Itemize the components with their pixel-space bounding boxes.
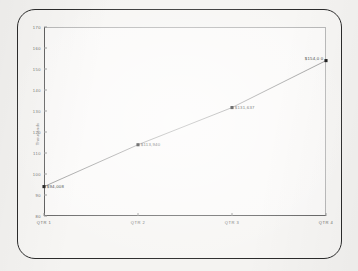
data-point-marker [42, 185, 45, 188]
y-tick-label: 90 [36, 193, 41, 198]
data-point-label: $94,008 [47, 184, 65, 189]
y-tick-label: 80 [36, 214, 41, 219]
y-tick-label: 160 [33, 46, 41, 51]
y-tick-label: 150 [33, 67, 41, 72]
data-point-marker [136, 143, 139, 146]
data-point-label: $154,0 0 [305, 56, 324, 61]
data-point-marker [230, 106, 233, 109]
y-tick-label: 130 [33, 109, 41, 114]
x-tick-label: QTR 3 [225, 220, 240, 225]
scanned-page: Thousands 8090100110120130140150160170 Q… [0, 0, 358, 271]
x-tick-label: QTR 1 [37, 220, 52, 225]
y-tick-label: 120 [33, 130, 41, 135]
x-tick-label: QTR 2 [131, 220, 146, 225]
x-tick-label: QTR 4 [319, 220, 334, 225]
data-point-label: $131,637 [235, 105, 255, 110]
data-point-marker [324, 59, 327, 62]
line-chart: Thousands 8090100110120130140150160170 Q… [30, 26, 330, 242]
y-tick-label: 100 [33, 172, 41, 177]
series-plot: $94,008$113,940$131,637$154,0 0 [44, 27, 326, 216]
y-tick-label: 110 [33, 151, 41, 156]
y-tick-label: 170 [33, 25, 41, 30]
y-tick-label: 140 [33, 88, 41, 93]
data-point-label: $113,940 [141, 142, 161, 147]
series-line [44, 61, 326, 187]
